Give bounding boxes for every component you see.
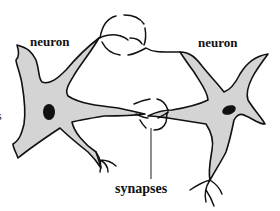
top-axon-line <box>99 35 128 40</box>
top-synapse-arc-right <box>144 28 146 45</box>
left-nucleus <box>43 104 55 120</box>
top-synapse-inner <box>130 38 142 44</box>
top-synapse-arc-bottom-left <box>102 42 120 55</box>
bottom-synapse-left <box>134 99 150 104</box>
synapse-top <box>99 15 180 55</box>
bottom-synapse-lower-left <box>140 120 146 128</box>
neuron-diagram <box>0 0 280 211</box>
synapses-label: synapses <box>115 182 167 196</box>
left-neuron-label: neuron <box>30 35 70 48</box>
top-dendrite-line <box>128 48 180 55</box>
left-neuron-body <box>13 38 145 168</box>
right-neuron-label: neuron <box>198 36 238 49</box>
bottom-synapse-right <box>157 99 168 110</box>
right-terminal-branches <box>190 180 222 206</box>
top-synapse-arc-top <box>124 15 144 24</box>
cropped-text-fragment: s <box>0 110 2 122</box>
left-neuron <box>13 38 145 172</box>
